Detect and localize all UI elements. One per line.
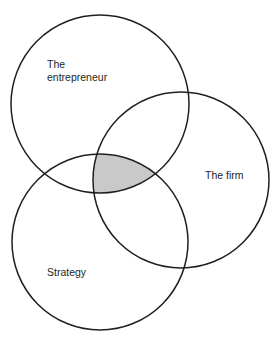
label-entrepreneur-line-1: The xyxy=(47,58,65,70)
triple-intersection-fill xyxy=(12,154,188,330)
label-firm: The firm xyxy=(205,169,244,181)
triple-intersection-region xyxy=(12,154,188,330)
label-entrepreneur: The entrepreneur xyxy=(47,58,108,83)
venn-diagram-canvas: The entrepreneur The firm Strategy xyxy=(0,0,280,341)
venn-diagram: The entrepreneur The firm Strategy xyxy=(0,0,280,341)
label-entrepreneur-line-2: entrepreneur xyxy=(47,71,108,83)
label-strategy: Strategy xyxy=(47,266,87,278)
